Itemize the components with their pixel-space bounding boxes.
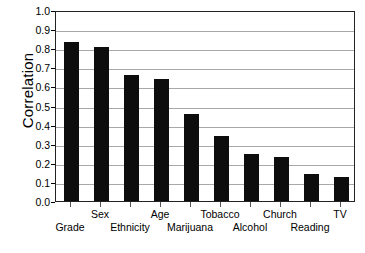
x-axis-tick-mark <box>340 202 341 207</box>
bar <box>154 79 169 201</box>
x-axis-tick-label: Age <box>151 209 170 220</box>
bar <box>334 177 349 201</box>
bar <box>274 157 289 202</box>
x-axis-tick-label: Sex <box>91 209 109 220</box>
y-axis-tick-label: 0.2 <box>22 159 50 169</box>
x-axis-tick-label: Church <box>263 209 297 220</box>
bar <box>304 174 319 201</box>
x-axis-tick-label: Tobacco <box>200 209 239 220</box>
y-axis-tick-label: 0.1 <box>22 178 50 188</box>
bar <box>64 42 79 201</box>
x-axis-tick-label: Reading <box>290 222 329 233</box>
y-axis-tick-label: 0.4 <box>22 121 50 131</box>
plot-area <box>55 11 355 202</box>
x-axis-tick-label: Ethnicity <box>110 222 150 233</box>
x-axis-tick-mark <box>250 202 251 207</box>
x-axis-tick-mark <box>190 202 191 207</box>
y-axis-tick-label: 0.0 <box>22 197 50 207</box>
y-axis-tick-label: 1.0 <box>22 6 50 16</box>
bar <box>214 136 229 201</box>
y-axis-tick-mark <box>51 202 55 203</box>
x-axis-tick-mark <box>310 202 311 207</box>
x-axis-tick-mark <box>280 202 281 207</box>
x-axis-tick-mark <box>100 202 101 207</box>
y-axis-tick-label: 0.8 <box>22 44 50 54</box>
x-axis-tick-label: Grade <box>55 222 84 233</box>
bar <box>244 154 259 201</box>
bar <box>184 114 199 201</box>
x-axis-tick-mark <box>160 202 161 207</box>
y-axis-tick-label: 0.3 <box>22 140 50 150</box>
bar-chart: Correlation 1.00.90.80.70.60.50.40.30.20… <box>0 0 365 253</box>
x-axis-tick-mark <box>220 202 221 207</box>
x-axis-tick-mark <box>70 202 71 207</box>
x-axis-tick-label: TV <box>333 209 346 220</box>
x-axis-tick-mark <box>130 202 131 207</box>
gridline <box>56 31 354 32</box>
y-axis-tick-label: 0.5 <box>22 102 50 112</box>
y-axis-tick-label: 0.7 <box>22 63 50 73</box>
x-axis-tick-label: Marijuana <box>167 222 213 233</box>
y-axis-tick-label: 0.6 <box>22 82 50 92</box>
y-axis-tick-labels: 1.00.90.80.70.60.50.40.30.20.10.0 <box>22 0 50 253</box>
x-axis-tick-label: Alcohol <box>233 222 267 233</box>
y-axis-tick-label: 0.9 <box>22 25 50 35</box>
bar <box>94 47 109 201</box>
bar <box>124 75 139 201</box>
